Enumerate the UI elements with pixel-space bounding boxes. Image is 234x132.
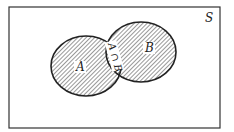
set-b-label: B <box>144 41 154 55</box>
set-a-label: A <box>75 60 85 74</box>
venn-diagram: A B S A ∩ B <box>0 0 234 132</box>
universe-label: S <box>205 11 213 25</box>
